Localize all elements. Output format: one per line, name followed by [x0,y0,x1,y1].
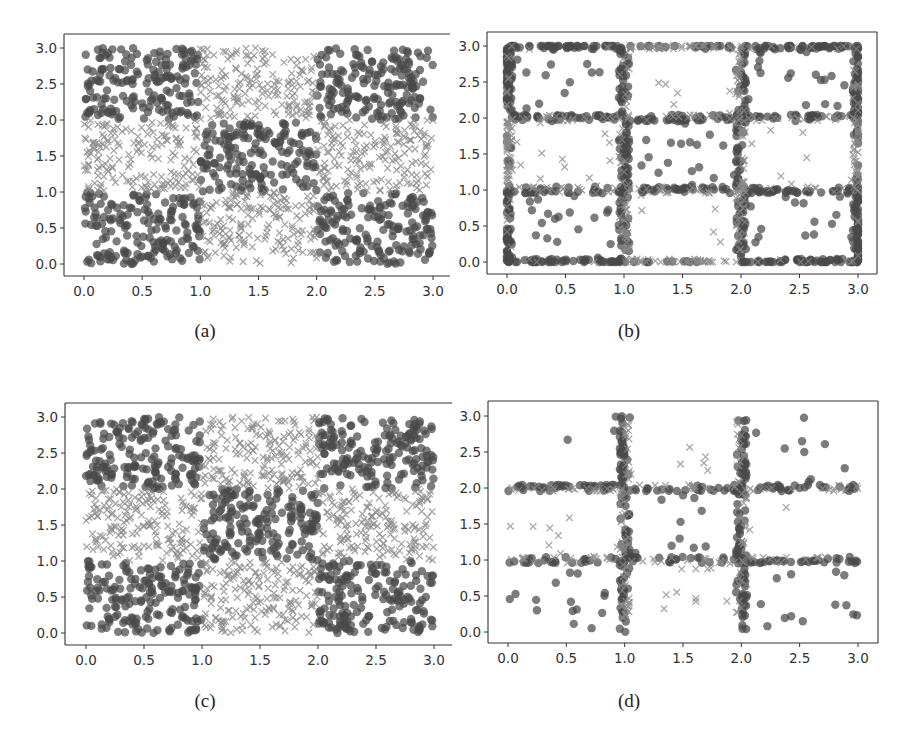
y-tick-label: 0.5 [460,588,481,604]
x-tick-label: 1.0 [614,650,635,666]
y-tick-label: 1.5 [460,516,481,532]
y-tick-label: 1.0 [460,552,481,568]
caption-c: (c) [175,690,235,712]
x-tick-label: 2.5 [789,650,810,666]
scatter-plot-d: 0.00.51.01.52.02.53.00.00.51.01.52.02.53… [0,0,911,752]
y-axis-ticks: 0.00.51.01.52.02.53.0 [460,408,488,640]
y-tick-label: 0.0 [460,624,481,640]
caption-b: (b) [599,320,659,342]
x-axis-ticks: 0.00.51.01.52.02.53.0 [497,643,868,666]
x-tick-label: 2.0 [731,650,752,666]
x-tick-label: 1.5 [672,650,693,666]
caption-d: (d) [599,690,659,712]
y-tick-label: 2.0 [460,480,481,496]
data-points [504,412,861,636]
y-tick-label: 2.5 [460,444,481,460]
x-tick-label: 3.0 [847,650,868,666]
x-tick-label: 0.0 [497,650,518,666]
y-tick-label: 3.0 [460,408,481,424]
caption-a: (a) [175,320,235,342]
x-tick-label: 0.5 [556,650,577,666]
